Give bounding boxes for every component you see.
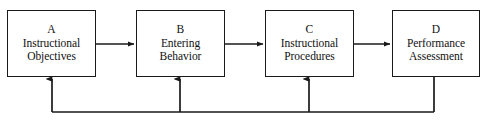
node-c-label-line1: Instructional	[281, 37, 338, 51]
node-b-letter: B	[177, 23, 185, 37]
node-a-label-line2: Objectives	[27, 50, 76, 64]
node-c-letter: C	[306, 23, 314, 37]
node-b-label-line2: Behavior	[160, 50, 202, 64]
node-a-letter: A	[47, 23, 55, 37]
node-box-a[interactable]: A Instructional Objectives	[7, 10, 96, 77]
node-a-label-line1: Instructional	[23, 37, 80, 51]
node-d-letter: D	[432, 23, 440, 37]
node-b-label-line1: Entering	[161, 37, 200, 51]
node-d-label-line1: Performance	[407, 37, 465, 51]
node-c-label-line2: Procedures	[284, 50, 335, 64]
node-box-d[interactable]: D Performance Assessment	[392, 10, 480, 77]
node-box-c[interactable]: C Instructional Procedures	[265, 10, 354, 77]
node-d-label-line2: Assessment	[409, 50, 463, 64]
flow-diagram: A Instructional Objectives B Entering Be…	[0, 0, 486, 121]
node-box-b[interactable]: B Entering Behavior	[136, 10, 225, 77]
